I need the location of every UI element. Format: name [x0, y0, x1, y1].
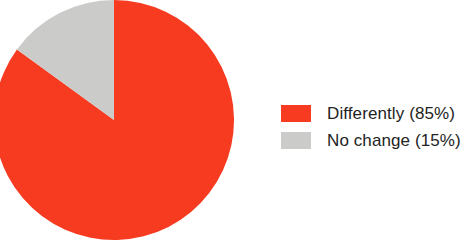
pie-chart-figure: Differently (85%) No change (15%)	[0, 0, 476, 244]
legend-item-no-change: No change (15%)	[281, 127, 476, 154]
pie-chart-svg	[0, 0, 250, 244]
legend-label-no-change: No change (15%)	[327, 131, 461, 150]
chart-legend: Differently (85%) No change (15%)	[281, 100, 476, 154]
legend-label-differently: Differently (85%)	[327, 104, 455, 123]
pie-chart-plot-area	[0, 0, 250, 244]
legend-item-differently: Differently (85%)	[281, 100, 476, 127]
legend-swatch-differently	[281, 105, 311, 122]
legend-swatch-no-change	[281, 132, 311, 149]
